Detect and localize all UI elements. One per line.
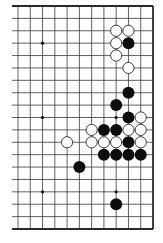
white-stone xyxy=(111,25,122,36)
white-stone xyxy=(123,25,134,36)
black-stone xyxy=(73,161,85,173)
black-stone xyxy=(122,87,134,99)
white-stone xyxy=(86,137,97,148)
white-stone xyxy=(135,124,146,135)
black-stone xyxy=(122,136,134,148)
black-stone xyxy=(135,149,147,161)
black-stone xyxy=(110,149,122,161)
white-stone xyxy=(111,50,122,61)
go-board-svg xyxy=(0,0,163,243)
star-point xyxy=(41,116,44,119)
black-stone xyxy=(122,37,134,49)
star-point xyxy=(41,42,44,45)
white-stone xyxy=(86,124,97,135)
white-stone xyxy=(135,112,146,123)
black-stone xyxy=(110,99,122,111)
white-stone xyxy=(123,124,134,135)
go-board-diagram xyxy=(0,0,163,243)
white-stone xyxy=(123,62,134,73)
black-stone xyxy=(110,124,122,136)
star-point xyxy=(115,190,118,193)
black-stone xyxy=(122,149,134,161)
black-stone xyxy=(98,124,110,136)
black-stone xyxy=(122,112,134,124)
white-stone xyxy=(135,137,146,148)
white-stone xyxy=(111,137,122,148)
star-point xyxy=(115,116,118,119)
white-stone xyxy=(61,137,72,148)
white-stone xyxy=(111,38,122,49)
black-stone xyxy=(98,149,110,161)
star-point xyxy=(41,190,44,193)
black-stone xyxy=(110,198,122,210)
white-stone xyxy=(98,137,109,148)
